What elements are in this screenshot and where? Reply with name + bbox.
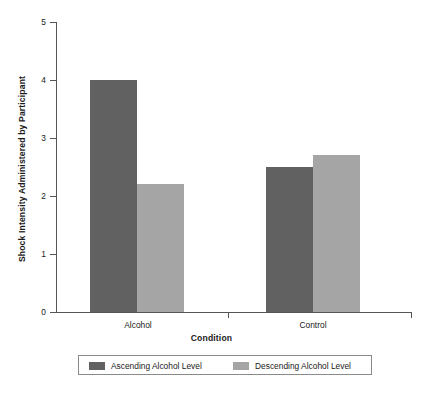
bar-alcohol-ascending [90, 80, 137, 312]
x-axis-line [56, 312, 412, 313]
bars-layer [0, 0, 423, 312]
legend-item-descending: Descending Alcohol Level [233, 360, 351, 372]
x-tick-label-control: Control [273, 320, 353, 330]
y-tick-mark-0 [50, 312, 56, 313]
legend-swatch-descending [233, 362, 249, 370]
figure-caption [4, 383, 184, 392]
x-tick-mark-between [228, 313, 229, 318]
bar-alcohol-descending [137, 184, 184, 312]
x-tick-mark-end [411, 313, 412, 318]
bar-control-descending [313, 155, 360, 312]
legend-swatch-ascending [89, 362, 105, 370]
legend-label-ascending: Ascending Alcohol Level [111, 361, 202, 371]
legend-item-ascending: Ascending Alcohol Level [89, 360, 202, 372]
chart-legend: Ascending Alcohol Level Descending Alcoh… [78, 355, 372, 375]
x-tick-label-alcohol: Alcohol [98, 320, 178, 330]
legend-label-descending: Descending Alcohol Level [255, 361, 351, 371]
x-axis-title: Condition [0, 333, 423, 343]
bar-chart-figure: Shock Intensity Administered by Particip… [0, 0, 423, 393]
bar-control-ascending [266, 167, 313, 312]
